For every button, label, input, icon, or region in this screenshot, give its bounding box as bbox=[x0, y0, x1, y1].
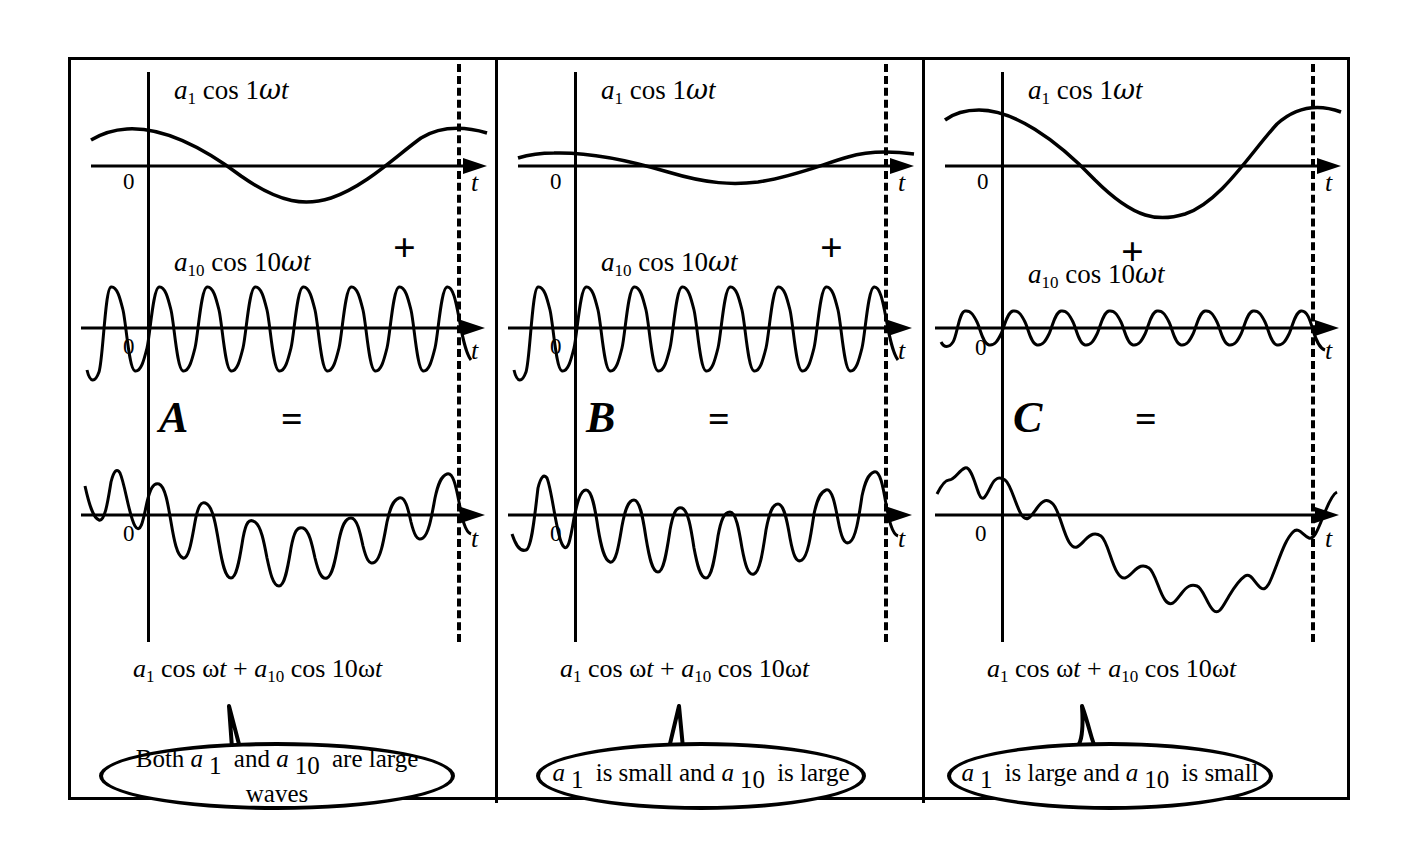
label-fundamental-b: a1 cos 1ωt bbox=[601, 76, 716, 107]
waveform-harmonic-a bbox=[81, 278, 491, 408]
panel-letter-c: C bbox=[1013, 396, 1042, 440]
waveform-sum-c bbox=[935, 450, 1345, 640]
panel-b: a1 cos 1ωt 0 t a10 cos 10ωt + 0 t B = 0 … bbox=[498, 60, 925, 803]
callout-bubble-a: Both a1 and a10 are large waves bbox=[99, 742, 455, 810]
equals-operator-a: = bbox=[281, 400, 303, 438]
equals-operator-b: = bbox=[708, 400, 730, 438]
equals-operator-c: = bbox=[1135, 400, 1157, 438]
panel-a: a1 cos 1ωt 0 t a10 cos 10ωt + 0 t A = 0 … bbox=[71, 60, 498, 803]
waveform-fundamental-a bbox=[91, 106, 491, 221]
plus-operator-b: + bbox=[820, 228, 843, 268]
waveform-fundamental-c bbox=[945, 90, 1345, 225]
label-harmonic-a: a10 cos 10ωt bbox=[174, 248, 311, 279]
sum-formula-b: a1 cos ωt + a10 cos 10ωt bbox=[560, 656, 809, 685]
callout-bubble-c: a1 is large and a10 is small bbox=[947, 742, 1273, 810]
sum-formula-c: a1 cos ωt + a10 cos 10ωt bbox=[987, 656, 1236, 685]
callout-text-c: a1 is large and a10 is small bbox=[955, 759, 1264, 794]
waveform-harmonic-c bbox=[935, 298, 1345, 408]
figure-frame: a1 cos 1ωt 0 t a10 cos 10ωt + 0 t A = 0 … bbox=[68, 57, 1350, 800]
waveform-sum-b bbox=[508, 460, 918, 635]
panel-c: a1 cos 1ωt 0 t + a10 cos 10ωt 0 t C = 0 … bbox=[925, 60, 1353, 803]
label-harmonic-c: a10 cos 10ωt bbox=[1028, 260, 1165, 291]
sum-formula-a: a1 cos ωt + a10 cos 10ωt bbox=[133, 656, 382, 685]
panel-letter-b: B bbox=[586, 396, 615, 440]
waveform-harmonic-b bbox=[508, 278, 918, 408]
callout-bubble-b: a1 is small and a10 is large bbox=[536, 742, 866, 810]
label-harmonic-b: a10 cos 10ωt bbox=[601, 248, 738, 279]
waveform-sum-a bbox=[81, 460, 491, 635]
waveform-fundamental-b bbox=[518, 106, 918, 221]
label-fundamental-a: a1 cos 1ωt bbox=[174, 76, 289, 107]
callout-text-b: a1 is small and a10 is large bbox=[546, 759, 855, 794]
callout-text-a: Both a1 and a10 are large waves bbox=[103, 745, 451, 808]
panel-letter-a: A bbox=[159, 396, 188, 440]
plus-operator-a: + bbox=[393, 228, 416, 268]
